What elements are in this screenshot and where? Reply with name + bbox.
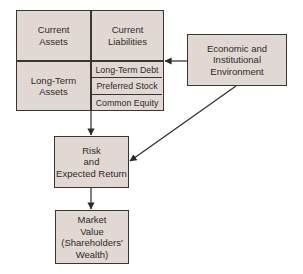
arrow-environment-to-risk — [130, 86, 236, 161]
connector-arrows — [0, 0, 303, 274]
